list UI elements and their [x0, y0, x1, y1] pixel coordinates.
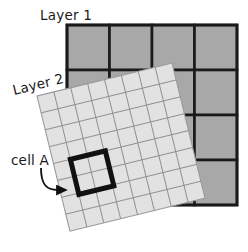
- layer1-cell: [195, 70, 238, 115]
- layered-grid-diagram: Layer 1 Layer 2 cell A: [0, 0, 248, 252]
- figure-canvas: Layer 1 Layer 2 cell A: [0, 0, 248, 252]
- cell-a-label: cell A: [11, 152, 50, 168]
- layer1-cell: [67, 25, 110, 70]
- layer1-cell: [152, 25, 195, 70]
- layer1-cell: [195, 115, 238, 160]
- layer1-cell: [110, 25, 153, 70]
- layer1-cell: [195, 25, 238, 70]
- layer1-label: Layer 1: [40, 7, 92, 23]
